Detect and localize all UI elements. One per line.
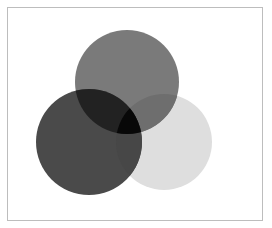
venn-diagram [0, 0, 272, 228]
